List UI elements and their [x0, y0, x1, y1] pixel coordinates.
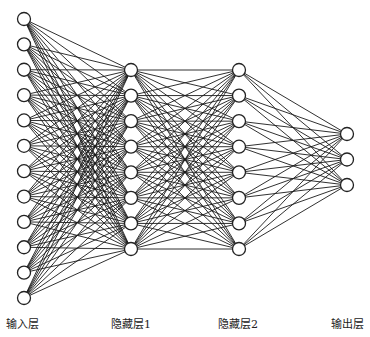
neuron-node: [125, 115, 138, 128]
neuron-node: [18, 89, 31, 102]
neuron-node: [233, 115, 246, 128]
layer-label-input: 输入层: [6, 315, 39, 331]
neuron-node: [18, 190, 31, 203]
layer-label-hidden-2: 隐藏层2: [218, 315, 258, 331]
neuron-node: [18, 38, 31, 51]
neuron-node: [233, 64, 246, 77]
neuron-node: [18, 215, 31, 228]
neuron-node: [233, 140, 246, 153]
neuron-node: [125, 89, 138, 102]
neuron-node: [125, 140, 138, 153]
neuron-node: [18, 114, 31, 127]
neuron-node: [233, 191, 246, 204]
neuron-node: [233, 89, 246, 102]
neuron-node: [18, 292, 31, 305]
neuron-node: [341, 179, 354, 192]
network-diagram: [0, 0, 370, 337]
layer-label-hidden-1: 隐藏层1: [111, 315, 151, 331]
neuron-node: [233, 217, 246, 230]
neuron-node: [233, 243, 246, 256]
neuron-node: [18, 13, 31, 26]
neuron-node: [125, 243, 138, 256]
neuron-node: [18, 241, 31, 254]
neuron-node: [125, 64, 138, 77]
neuron-node: [125, 191, 138, 204]
neuron-node: [18, 139, 31, 152]
neuron-node: [341, 128, 354, 141]
neuron-node: [18, 266, 31, 279]
neuron-node: [125, 217, 138, 230]
neuron-node: [18, 165, 31, 178]
connections: [24, 19, 347, 298]
neuron-node: [233, 166, 246, 179]
neuron-node: [125, 166, 138, 179]
neuron-node: [18, 63, 31, 76]
neuron-node: [341, 153, 354, 166]
layer-label-output: 输出层: [331, 315, 364, 331]
